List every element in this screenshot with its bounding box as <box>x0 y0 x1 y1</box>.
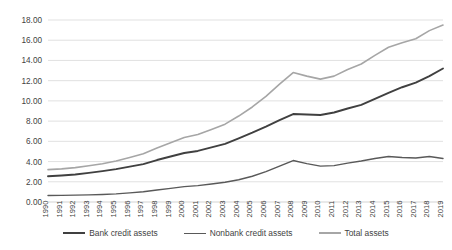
y-axis-tick-labels: 0.002.004.006.008.0010.0012.0014.0016.00… <box>22 16 43 207</box>
x-tick-label: 2012 <box>341 201 350 218</box>
x-tick-label: 2000 <box>177 201 186 218</box>
x-tick-label: 1994 <box>95 201 104 218</box>
y-tick-label: 18.00 <box>22 16 43 25</box>
x-tick-label: 2018 <box>422 201 431 218</box>
y-tick-label: 12.00 <box>22 77 43 86</box>
x-tick-label: 2007 <box>273 201 282 218</box>
x-tick-label: 2001 <box>191 201 200 218</box>
x-tick-label: 1997 <box>136 201 145 218</box>
legend-item[interactable]: Nonbank credit assets <box>184 228 293 238</box>
y-tick-label: 0.00 <box>26 198 42 207</box>
x-axis-tick-labels: 1990199119921993199419951996199719981999… <box>41 201 445 218</box>
chart-plot-area: 0.002.004.006.008.0010.0012.0014.0016.00… <box>0 0 452 228</box>
x-tick-label: 2004 <box>232 201 241 218</box>
series-lines <box>48 25 443 195</box>
x-tick-label: 2009 <box>300 201 309 218</box>
x-tick-label: 1992 <box>68 201 77 218</box>
y-tick-label: 10.00 <box>22 97 43 106</box>
chart-legend: Bank credit assetsNonbank credit assetsT… <box>0 228 452 238</box>
legend-item[interactable]: Total assets <box>319 228 389 238</box>
x-tick-label: 2003 <box>218 201 227 218</box>
x-tick-label: 2010 <box>313 201 322 218</box>
y-tick-label: 8.00 <box>26 117 42 126</box>
x-tick-label: 2019 <box>436 201 445 218</box>
series-line <box>48 69 443 177</box>
x-tick-label: 1995 <box>109 201 118 218</box>
y-tick-label: 16.00 <box>22 36 43 45</box>
x-tick-label: 2006 <box>259 201 268 218</box>
x-tick-label: 1991 <box>55 201 64 218</box>
y-tick-label: 2.00 <box>26 178 42 187</box>
series-line <box>48 25 443 170</box>
x-tick-label: 2011 <box>327 201 336 217</box>
x-tick-label: 1993 <box>82 201 91 218</box>
x-tick-label: 1990 <box>41 201 50 218</box>
x-tick-label: 2016 <box>395 201 404 218</box>
legend-item-label: Nonbank credit assets <box>210 228 293 238</box>
line-chart: 0.002.004.006.008.0010.0012.0014.0016.00… <box>0 0 452 250</box>
x-tick-label: 1998 <box>150 201 159 218</box>
legend-item[interactable]: Bank credit assets <box>63 228 157 238</box>
x-tick-label: 2015 <box>382 201 391 218</box>
y-tick-label: 6.00 <box>26 137 42 146</box>
x-tick-label: 2013 <box>354 201 363 218</box>
legend-item-label: Bank credit assets <box>89 228 157 238</box>
y-tick-label: 4.00 <box>26 158 42 167</box>
x-tick-label: 2014 <box>368 201 377 218</box>
x-tick-label: 1996 <box>123 201 132 218</box>
x-tick-label: 1999 <box>164 201 173 218</box>
x-tick-label: 2008 <box>286 201 295 218</box>
x-tick-label: 2005 <box>245 201 254 218</box>
legend-color-swatch <box>319 232 341 234</box>
legend-color-swatch <box>184 233 206 234</box>
x-tick-label: 2002 <box>204 201 213 218</box>
legend-color-swatch <box>63 232 85 234</box>
y-tick-label: 14.00 <box>22 56 43 65</box>
legend-item-label: Total assets <box>345 228 389 238</box>
x-tick-label: 2017 <box>409 201 418 218</box>
